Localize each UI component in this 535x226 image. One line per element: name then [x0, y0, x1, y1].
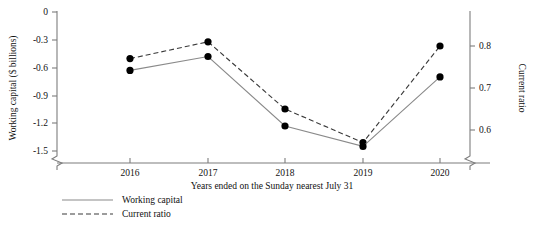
right-axis-break-icon: [465, 152, 475, 170]
data-point-marker: [126, 55, 133, 62]
data-point-marker: [204, 38, 211, 45]
series-working-capital: [126, 53, 443, 150]
right-tick-label-1: 0.7: [479, 83, 491, 93]
x-tick-label-2020: 2020: [431, 168, 450, 178]
left-tick-label-2: -0.6: [33, 63, 48, 73]
data-point-marker: [436, 42, 443, 49]
legend: Working capital Current ratio: [62, 195, 183, 219]
working-capital-markers: [126, 53, 443, 150]
right-axis-title: Current ratio: [517, 64, 527, 113]
current-ratio-markers: [126, 38, 443, 146]
data-point-marker: [436, 73, 443, 80]
x-axis: 2016 2017 2018 2019 2020 Years ended on …: [57, 158, 490, 191]
x-tick-label-2016: 2016: [121, 168, 140, 178]
working-capital-line: [130, 57, 440, 147]
x-tick-label-2019: 2019: [354, 168, 373, 178]
left-tick-label-0: 0: [43, 7, 48, 17]
left-axis-title: Working capital ($ billions): [8, 35, 19, 140]
left-tick-label-4: -1.2: [33, 118, 48, 128]
legend-label-working-capital: Working capital: [122, 195, 183, 205]
x-tick-label-2018: 2018: [276, 168, 295, 178]
series-current-ratio: [126, 38, 443, 146]
data-point-marker: [126, 67, 133, 74]
legend-label-current-ratio: Current ratio: [122, 209, 171, 219]
data-point-marker: [281, 122, 288, 129]
right-tick-label-0: 0.8: [479, 41, 491, 51]
left-axis: 0 -0.3 -0.6 -0.9 -1.2 -1.5 Working capit…: [8, 7, 62, 170]
left-tick-label-3: -0.9: [33, 91, 48, 101]
x-tick-label-2017: 2017: [199, 168, 218, 178]
left-tick-label-5: -1.5: [33, 146, 48, 156]
data-point-marker: [359, 143, 366, 150]
data-point-marker: [281, 105, 288, 112]
right-axis: 0.8 0.7 0.6 Current ratio: [465, 11, 527, 170]
chart-container: 0 -0.3 -0.6 -0.9 -1.2 -1.5 Working capit…: [0, 0, 535, 226]
right-tick-label-2: 0.6: [479, 125, 491, 135]
x-axis-title: Years ended on the Sunday nearest July 3…: [191, 181, 354, 191]
data-point-marker: [204, 53, 211, 60]
left-axis-break-icon: [52, 152, 62, 170]
left-tick-label-1: -0.3: [33, 35, 48, 45]
line-chart: 0 -0.3 -0.6 -0.9 -1.2 -1.5 Working capit…: [0, 0, 535, 226]
